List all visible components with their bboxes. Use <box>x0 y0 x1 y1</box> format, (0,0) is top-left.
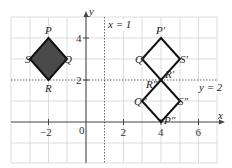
shape-PQRS <box>30 38 67 80</box>
x-axis-label: x <box>217 109 223 121</box>
x-tick-6: 6 <box>196 126 202 138</box>
y-axis-label: y <box>88 5 94 17</box>
coordinate-diagram: y x 4 2 −2 0 2 4 6 x = 1 y = 2 P Q R S P… <box>0 0 232 168</box>
y-axis-arrow-icon <box>84 11 89 17</box>
vertex-label-Q-double-prime: Q″ <box>134 95 147 107</box>
vertex-label-P-double-prime: P″ <box>163 114 176 126</box>
x-tick-2: 2 <box>121 126 127 138</box>
y-tick-4: 4 <box>76 32 82 44</box>
vertex-label-R-double-prime: R″ <box>145 78 158 90</box>
vertex-label-Q-prime: Q′ <box>135 53 146 65</box>
vertex-label-R: R <box>44 82 52 94</box>
mirror-label-y-equals-2: y = 2 <box>198 81 223 93</box>
vertex-label-S-double-prime: S″ <box>178 95 189 107</box>
vertex-label-P: P <box>44 24 52 36</box>
grid <box>11 17 217 163</box>
x-tick-4: 4 <box>158 126 164 138</box>
vertex-label-P-prime: P′ <box>155 24 166 36</box>
axes <box>11 14 222 163</box>
y-tick-2: 2 <box>76 74 82 86</box>
x-tick-neg2: −2 <box>40 126 52 138</box>
mirror-label-x-equals-1: x = 1 <box>107 18 131 30</box>
origin-label: 0 <box>79 124 85 136</box>
vertex-label-Q: Q <box>64 53 72 65</box>
vertex-label-S: S <box>25 53 31 65</box>
vertex-label-S-prime: S′ <box>180 53 189 65</box>
vertex-label-R-prime: R′ <box>164 68 175 80</box>
